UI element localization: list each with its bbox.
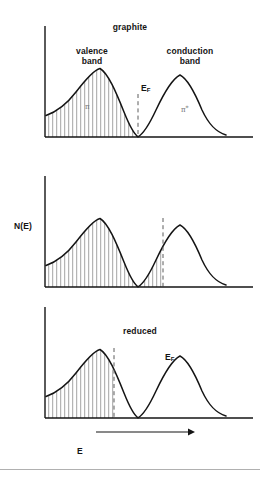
conduction-band-label: conduction band (167, 46, 214, 66)
fermi-label-sub: F (147, 87, 151, 93)
pi-band-symbol: π (85, 103, 90, 111)
panel-oxidized: oxidized EF (0, 300, 260, 460)
panel-title-graphite: graphite (113, 22, 147, 32)
valence-band-label-line2: band (82, 56, 103, 66)
valence-band-label-line1: valence (76, 46, 108, 56)
valence-band-label: valence band (76, 46, 108, 66)
panel-graphite: graphite valence band conduction band EF… (0, 0, 260, 150)
footer-divider (0, 469, 260, 470)
pi-star-band-symbol: π* (181, 104, 189, 114)
pi-star-asterisk: * (186, 104, 189, 111)
conduction-band-label-line1: conduction (167, 46, 214, 56)
energy-axis-arrow-head (188, 429, 195, 436)
filled-states-hatch (46, 150, 163, 300)
y-axis-label: N(E) (14, 221, 32, 231)
panel-reduced: reduced EF (0, 150, 260, 300)
x-axis-label: E (77, 446, 83, 456)
fermi-level-label-graphite: EF (141, 83, 151, 94)
panel-reduced-plot (0, 150, 260, 300)
conduction-band-label-line2: band (180, 56, 201, 66)
filled-states-hatch (46, 300, 114, 460)
panel-oxidized-plot (0, 300, 260, 460)
dos-figure: graphite valence band conduction band EF… (0, 0, 260, 482)
